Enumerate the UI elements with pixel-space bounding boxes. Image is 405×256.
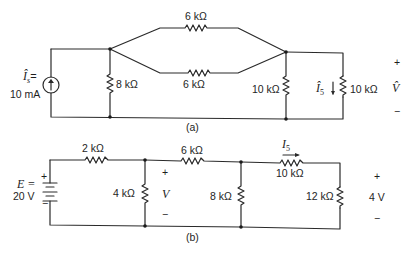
- source-a-value: 10 mA: [10, 88, 40, 100]
- node-dot: [284, 117, 288, 121]
- current-a-symbol: Î5: [315, 81, 324, 97]
- output-a-minus: −: [394, 105, 400, 117]
- caption-a: (a): [186, 121, 199, 133]
- circuit-b: + − E = 20 V 2 kΩ 4 kΩ + V − 6 kΩ 8 kΩ 1…: [13, 137, 385, 243]
- label-r-load: 10 kΩ: [350, 83, 378, 95]
- label-r-load-b: 12 kΩ: [306, 190, 334, 202]
- node-dot: [239, 160, 243, 164]
- current-source-icon: [43, 77, 59, 93]
- resistor-icon-8k-a: [107, 49, 113, 117]
- source-b-value: 20 V: [13, 190, 35, 202]
- battery-minus: −: [42, 197, 48, 209]
- battery-plus: +: [41, 170, 47, 182]
- resistor-icon-12k: [337, 187, 343, 208]
- label-r-shunt2: 8 kΩ: [210, 190, 232, 202]
- label-r-shunt-left: 8 kΩ: [116, 78, 138, 90]
- output-a-plus: +: [394, 56, 400, 68]
- resistor-icon-6k-top: [110, 25, 286, 52]
- wire-a-bottom: [51, 93, 343, 119]
- circuit-diagram: Îs= 10 mA 8 kΩ 6 kΩ 6 kΩ 10 kΩ 10 kΩ Î5 …: [0, 0, 405, 256]
- resistor-icon-6k-b: [145, 158, 241, 164]
- resistor-icon-2k: [50, 157, 145, 163]
- label-r-top: 6 kΩ: [185, 10, 207, 22]
- wire-b-bottom: [50, 201, 340, 229]
- node-dot: [239, 225, 243, 229]
- source-b-label: E =: [16, 177, 35, 191]
- node-dot: [108, 115, 112, 119]
- label-r-series1: 2 kΩ: [82, 142, 104, 154]
- label-r-bottom: 6 kΩ: [183, 78, 205, 90]
- node-v-plus: +: [162, 166, 168, 178]
- resistor-icon-4k: [142, 160, 148, 226]
- circuit-a: Îs= 10 mA 8 kΩ 6 kΩ 6 kΩ 10 kΩ 10 kΩ Î5 …: [10, 10, 401, 133]
- node-dot: [284, 50, 288, 54]
- node-v-symbol: V: [162, 187, 171, 201]
- node-dot: [108, 47, 112, 51]
- node-v-minus: −: [162, 208, 168, 220]
- resistor-icon-10k-mid: [283, 52, 289, 119]
- output-a-symbol: V̂: [392, 81, 401, 95]
- node-dot: [143, 158, 147, 162]
- resistor-icon-8k-b: [238, 162, 244, 227]
- output-b-minus: −: [374, 212, 380, 224]
- resistor-icon-6k-bottom: [110, 49, 286, 76]
- output-b-value: 4 V: [369, 191, 385, 203]
- label-r-shunt-mid: 10 kΩ: [252, 83, 280, 95]
- caption-b: (b): [186, 231, 199, 243]
- wire-a-top-right: [286, 52, 343, 76]
- source-a-symbol: Îs=: [22, 69, 37, 85]
- node-dot: [143, 224, 147, 228]
- label-r-series3: 10 kΩ: [276, 167, 304, 179]
- resistor-icon-10k-load: [340, 76, 346, 97]
- label-r-shunt1: 4 kΩ: [113, 187, 135, 199]
- output-b-plus: +: [374, 170, 380, 182]
- current-b-symbol: I5: [281, 137, 290, 153]
- label-r-series2: 6 kΩ: [181, 144, 203, 156]
